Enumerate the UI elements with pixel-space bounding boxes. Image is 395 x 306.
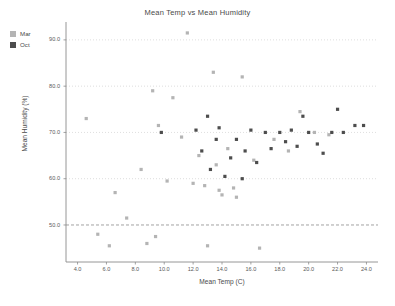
data-point-mar (192, 182, 195, 185)
x-tick-label: 14.0 (210, 266, 234, 272)
data-point-oct (160, 131, 163, 134)
chart-figure: Mean Temp vs Mean Humidity Mar Oct 50.06… (0, 0, 395, 306)
data-point-mar (327, 133, 330, 136)
data-point-mar (220, 193, 223, 196)
data-point-mar (96, 233, 99, 236)
scatter-plot-canvas (0, 0, 395, 306)
data-point-mar (85, 117, 88, 120)
data-point-mar (232, 186, 235, 189)
data-point-oct (229, 156, 232, 159)
data-point-oct (241, 177, 244, 180)
data-point-mar (226, 147, 229, 150)
y-tick-label: 50.0 (36, 222, 60, 228)
data-point-oct (244, 149, 247, 152)
data-point-mar (215, 163, 218, 166)
data-point-oct (296, 145, 299, 148)
data-point-oct (362, 124, 365, 127)
x-tick-label: 10.0 (152, 266, 176, 272)
data-point-mar (186, 31, 189, 34)
data-point-mar (197, 154, 200, 157)
x-tick-label: 12.0 (181, 266, 205, 272)
data-point-mar (235, 196, 238, 199)
data-point-oct (194, 129, 197, 132)
data-point-mar (287, 149, 290, 152)
data-point-oct (249, 129, 252, 132)
data-point-mar (151, 89, 154, 92)
x-tick-label: 6.0 (94, 266, 118, 272)
y-tick-label: 80.0 (36, 83, 60, 89)
data-point-mar (157, 124, 160, 127)
data-point-mar (125, 216, 128, 219)
data-point-oct (284, 140, 287, 143)
x-tick-label: 4.0 (66, 266, 90, 272)
data-point-oct (264, 131, 267, 134)
data-point-mar (272, 138, 275, 141)
data-point-mar (218, 189, 221, 192)
data-point-mar (108, 244, 111, 247)
data-point-mar (203, 184, 206, 187)
data-point-mar (171, 96, 174, 99)
data-point-oct (200, 149, 203, 152)
data-point-oct (278, 131, 281, 134)
data-point-oct (255, 161, 258, 164)
data-point-oct (330, 131, 333, 134)
data-point-oct (353, 124, 356, 127)
plot-area: 50.060.070.080.090.04.06.08.010.012.014.… (0, 0, 395, 306)
x-tick-label: 16.0 (239, 266, 263, 272)
x-tick-label: 22.0 (326, 266, 350, 272)
y-tick-label: 90.0 (36, 36, 60, 42)
data-point-mar (258, 247, 261, 250)
data-point-mar (212, 71, 215, 74)
data-point-oct (316, 142, 319, 145)
data-point-oct (301, 115, 304, 118)
x-tick-label: 20.0 (297, 266, 321, 272)
x-tick-label: 24.0 (354, 266, 378, 272)
data-point-oct (270, 147, 273, 150)
data-point-mar (114, 191, 117, 194)
data-point-oct (336, 108, 339, 111)
data-point-oct (290, 129, 293, 132)
y-tick-label: 60.0 (36, 175, 60, 181)
data-point-oct (322, 152, 325, 155)
data-point-oct (342, 131, 345, 134)
data-point-mar (145, 242, 148, 245)
data-point-oct (215, 138, 218, 141)
x-tick-label: 18.0 (268, 266, 292, 272)
data-point-mar (241, 75, 244, 78)
y-axis-title: Mean Humidity (%) (21, 64, 28, 184)
y-tick-label: 70.0 (36, 129, 60, 135)
data-point-mar (154, 235, 157, 238)
data-point-mar (252, 159, 255, 162)
data-point-oct (209, 168, 212, 171)
x-tick-label: 8.0 (123, 266, 147, 272)
data-point-mar (166, 179, 169, 182)
data-point-oct (223, 175, 226, 178)
x-axis-title: Mean Temp (C) (66, 278, 378, 285)
data-point-mar (180, 135, 183, 138)
data-point-mar (298, 110, 301, 113)
data-point-oct (307, 131, 310, 134)
data-point-mar (313, 131, 316, 134)
data-point-mar (206, 244, 209, 247)
data-point-oct (235, 138, 238, 141)
data-point-mar (140, 168, 143, 171)
data-point-oct (218, 126, 221, 129)
data-point-oct (206, 115, 209, 118)
